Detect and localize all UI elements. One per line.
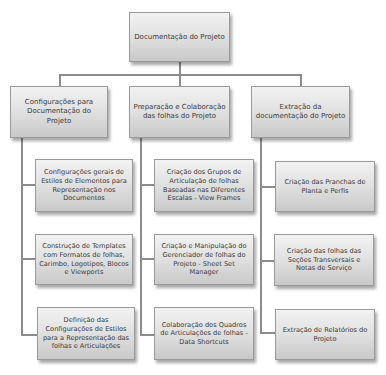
child-node: Colaboração dos Quadros de Articulações …	[154, 307, 254, 360]
child-node-label: Colaboração dos Quadros de Articulações …	[158, 321, 250, 347]
branch-node-preparacao: Preparação e Colaboração das folhas do P…	[129, 86, 230, 138]
connector-branch-1-spine	[21, 138, 23, 336]
branch-node-extracao: Extração da documentação do Projeto	[251, 86, 350, 138]
branch-node-label: Configurações para Documentação do Proje…	[14, 98, 104, 126]
connector-branch-3-child-3	[260, 332, 275, 334]
org-chart-diagram: Documentação do Projeto Configurações pa…	[0, 0, 386, 375]
child-node-label: Criação das folhas das Seções Transversa…	[278, 247, 370, 273]
child-node-label: Criação dos Grupos de Articulação de fol…	[158, 168, 250, 202]
connector-branch-2-down	[179, 74, 181, 86]
connector-branch-2-spine	[140, 138, 142, 336]
child-node: Criação das Pranchas de Planta e Perfis	[275, 161, 375, 212]
child-node-label: Criação das Pranchas de Planta e Perfis	[279, 178, 371, 195]
child-node: Configurações gerais de Estilos de Eleme…	[35, 159, 133, 212]
connector-branch-2-child-1	[140, 184, 154, 186]
connector-branch-3-spine	[260, 138, 262, 334]
branch-node-label: Extração da documentação do Projeto	[255, 103, 346, 122]
connector-branch-3-child-2	[260, 260, 274, 262]
child-node: Criação dos Grupos de Articulação de fol…	[154, 159, 254, 212]
child-node: Construção de Templates com Formatos de …	[35, 234, 133, 285]
root-node-label: Documentação do Projeto	[134, 33, 225, 42]
connector-branch-3-down	[300, 74, 302, 86]
child-node: Extração de Relatórios do Projeto	[275, 309, 375, 360]
branch-node-configuracoes: Configurações para Documentação do Proje…	[10, 86, 108, 138]
child-node: Criação das folhas das Seções Transversa…	[274, 234, 374, 286]
child-node: Definição das Configurações de Estilos p…	[37, 307, 135, 360]
connector-branch-3-child-1	[260, 186, 275, 188]
connector-branch-2-child-3	[140, 334, 154, 336]
child-node-label: Construção de Templates com Formatos de …	[39, 242, 129, 276]
branch-node-label: Preparação e Colaboração das folhas do P…	[133, 103, 226, 122]
child-node-label: Extração de Relatórios do Projeto	[279, 326, 371, 343]
child-node-label: Criação e Manipulação do Gerenciador de …	[158, 242, 250, 276]
child-node-label: Configurações gerais de Estilos de Eleme…	[39, 168, 129, 202]
child-node: Criação e Manipulação do Gerenciador de …	[154, 234, 254, 285]
connector-branch-2-child-2	[140, 258, 154, 260]
root-node: Documentação do Projeto	[129, 12, 230, 62]
child-node-label: Definição das Configurações de Estilos p…	[41, 316, 131, 350]
connector-branch-1-child-1	[21, 184, 35, 186]
connector-branch-1-down	[59, 74, 61, 86]
connector-branch-1-child-2	[21, 258, 35, 260]
connector-branch-1-child-3	[21, 334, 37, 336]
